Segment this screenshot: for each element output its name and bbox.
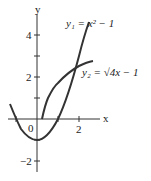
y2-annotation: y₂ = √4x − 1 <box>82 67 138 78</box>
y-tick-label-4: 4 <box>26 30 32 41</box>
x-axis-label: x <box>103 113 109 124</box>
y-tick-label-neg2: −2 <box>20 156 32 167</box>
x-tick-label-2: 2 <box>76 124 82 135</box>
y-axis-label: y <box>35 4 41 15</box>
y1-annotation: y₁ = x² − 1 <box>66 18 114 29</box>
y-tick-label-2: 2 <box>26 72 32 83</box>
origin-label: 0 <box>28 123 34 134</box>
